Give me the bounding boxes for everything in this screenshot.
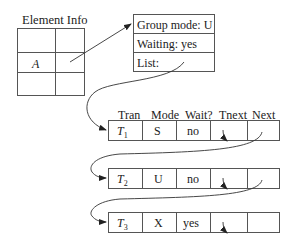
arrow-connectors <box>0 0 294 249</box>
